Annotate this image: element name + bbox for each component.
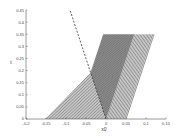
y-tick-label: 0.35: [16, 32, 25, 37]
y-tick-label: 0.2: [18, 68, 24, 73]
x-tick-label: 0.1: [143, 121, 149, 126]
characteristic-lines: [46, 34, 154, 119]
characteristics-chart: -0.2-0.15-0.1-0.0500.050.10.1500.050.10.…: [0, 0, 175, 138]
x-axis-label: x0: [101, 126, 107, 132]
y-axis-label: t: [10, 59, 12, 65]
x-tick-label: 0.05: [122, 121, 131, 126]
x-tick-label: -0.05: [81, 121, 91, 126]
x-tick-label: -0.15: [41, 121, 51, 126]
y-tick-label: 0.05: [16, 104, 25, 109]
x-tick-label: 0.15: [162, 121, 171, 126]
x-tick-label: -0.2: [23, 121, 31, 126]
y-tick-label: 0.15: [16, 80, 25, 85]
y-tick-label: 0.3: [18, 44, 24, 49]
y-tick-label: 0.45: [16, 8, 25, 13]
x-tick-label: -0.1: [63, 121, 71, 126]
y-tick-label: 0.25: [16, 56, 25, 61]
characteristic-line: [126, 34, 154, 119]
y-tick-label: 0.4: [18, 20, 24, 25]
y-tick-label: 0.1: [18, 92, 24, 97]
